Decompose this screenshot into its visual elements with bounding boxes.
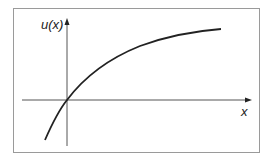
x-axis-label: x — [241, 105, 248, 118]
y-axis-label: u(x) — [41, 18, 63, 31]
